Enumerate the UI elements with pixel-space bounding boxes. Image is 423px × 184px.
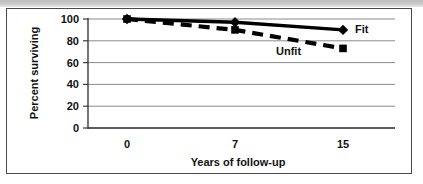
x-tick-label-15: 15 xyxy=(337,138,349,150)
y-axis-tick-labels: 100 80 60 40 20 0 xyxy=(61,13,79,134)
y-tick-label-0: 0 xyxy=(73,122,79,134)
y-tick-label-20: 20 xyxy=(67,100,79,112)
line-chart-plot: 100 80 60 40 20 0 Percent surviving 0 7 … xyxy=(0,0,423,184)
gridlines xyxy=(88,19,395,128)
y-axis-ticks xyxy=(83,19,88,128)
series-label-fit: Fit xyxy=(355,23,369,35)
y-axis-title: Percent surviving xyxy=(28,27,40,119)
series-unfit-marker-15 xyxy=(339,45,347,53)
x-tick-label-7: 7 xyxy=(232,138,238,150)
series-label-unfit: Unfit xyxy=(276,45,301,57)
chart-figure: 100 80 60 40 20 0 Percent surviving 0 7 … xyxy=(0,0,423,184)
y-tick-label-60: 60 xyxy=(67,57,79,69)
x-axis-title: Years of follow-up xyxy=(191,156,286,168)
y-tick-label-40: 40 xyxy=(67,78,79,90)
y-tick-label-100: 100 xyxy=(61,13,79,25)
series-fit-marker-15 xyxy=(338,25,348,35)
y-tick-label-80: 80 xyxy=(67,35,79,47)
x-tick-label-0: 0 xyxy=(124,138,130,150)
x-axis-tick-labels: 0 7 15 xyxy=(124,138,349,150)
